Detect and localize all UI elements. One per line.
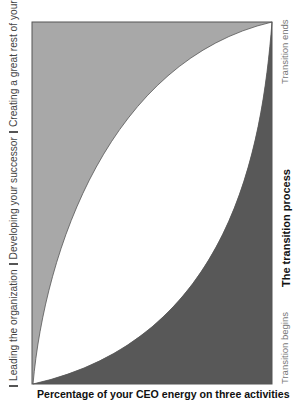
legend: Leading the organization Developing your…	[8, 8, 19, 388]
legend-label-creating: Creating a great rest of your life	[8, 0, 19, 127]
legend-swatch-creating	[9, 131, 18, 133]
legend-label-developing: Developing your successor	[8, 137, 19, 259]
y-axis-title: The transition process	[280, 169, 292, 287]
legend-swatch-leading	[9, 385, 18, 387]
legend-label-leading: Leading the organization	[8, 269, 19, 381]
y-tick-transition-begins: Transition begins	[279, 312, 290, 384]
chart-plot-area	[0, 0, 298, 420]
x-axis-label: Percentage of your CEO energy on three a…	[37, 388, 290, 400]
y-tick-transition-ends: Transition ends	[279, 19, 290, 84]
legend-swatch-developing	[9, 263, 18, 265]
